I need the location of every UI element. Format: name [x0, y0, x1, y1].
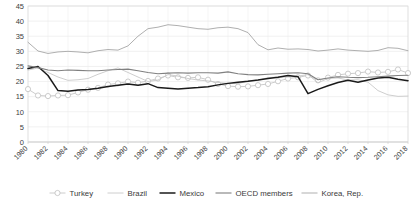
- series-marker: [25, 87, 30, 92]
- series-marker: [255, 83, 260, 88]
- y-tick-label: 25: [16, 62, 24, 71]
- y-axis-tick-labels: 454035302520151050: [16, 2, 24, 147]
- y-tick-label: 10: [16, 108, 24, 117]
- series-line-korea-rep: [28, 25, 408, 54]
- series-marker: [365, 69, 370, 74]
- x-tick-label: 1994: [152, 144, 170, 162]
- series-marker: [55, 93, 60, 98]
- y-tick-label: 20: [16, 77, 24, 86]
- x-tick-label: 1998: [192, 144, 210, 162]
- x-tick-label: 2014: [352, 144, 370, 162]
- legend-label-turkey: Turkey: [70, 189, 94, 198]
- series-marker: [265, 81, 270, 86]
- series-line-oecd-members: [28, 66, 408, 80]
- series-marker: [35, 93, 40, 98]
- x-tick-label: 1990: [112, 144, 130, 162]
- x-tick-label: 1984: [52, 144, 70, 162]
- x-tick-label: 1988: [92, 144, 110, 162]
- line-chart: 454035302520151050 198019821984198619881…: [0, 0, 413, 210]
- chart-legend: TurkeyBrazilMexicoOECD membersKorea, Rep…: [50, 189, 364, 198]
- x-tick-label: 1980: [12, 144, 30, 162]
- y-tick-label: 35: [16, 32, 24, 41]
- x-tick-label: 2006: [272, 144, 290, 162]
- series-marker: [235, 84, 240, 89]
- grid-layer: [28, 6, 408, 142]
- y-tick-label: 15: [16, 92, 24, 101]
- legend-label-oecd-members: OECD members: [236, 189, 293, 198]
- series-marker: [385, 69, 390, 74]
- series-marker: [45, 93, 50, 98]
- legend-label-korea-rep: Korea, Rep.: [322, 189, 364, 198]
- series-marker: [195, 75, 200, 80]
- legend-marker: [55, 190, 60, 195]
- series-marker: [355, 70, 360, 75]
- x-tick-label: 2012: [332, 144, 350, 162]
- x-tick-label: 2018: [392, 144, 410, 162]
- y-tick-label: 40: [16, 17, 24, 26]
- x-tick-label: 2016: [372, 144, 390, 162]
- x-tick-label: 2008: [292, 144, 310, 162]
- x-axis-tick-labels: 1980198219841986198819901992199419961998…: [12, 142, 410, 162]
- x-tick-label: 1982: [32, 144, 50, 162]
- series-layer: [25, 25, 410, 99]
- x-tick-label: 1992: [132, 144, 150, 162]
- x-tick-label: 1986: [72, 144, 90, 162]
- series-marker: [395, 67, 400, 72]
- x-tick-label: 2002: [232, 144, 250, 162]
- series-marker: [245, 84, 250, 89]
- series-marker: [345, 71, 350, 76]
- y-tick-label: 5: [20, 123, 24, 132]
- x-tick-label: 2000: [212, 144, 230, 162]
- series-marker: [375, 70, 380, 75]
- legend-label-mexico: Mexico: [180, 189, 205, 198]
- legend-label-brazil: Brazil: [128, 189, 148, 198]
- x-tick-label: 2004: [252, 144, 270, 162]
- series-marker: [65, 93, 70, 98]
- series-marker: [275, 79, 280, 84]
- x-tick-label: 1996: [172, 144, 190, 162]
- y-tick-label: 30: [16, 47, 24, 56]
- x-tick-label: 2010: [312, 144, 330, 162]
- chart-container: 454035302520151050 198019821984198619881…: [0, 0, 413, 210]
- y-tick-label: 45: [16, 2, 24, 11]
- series-line-brazil: [28, 68, 408, 96]
